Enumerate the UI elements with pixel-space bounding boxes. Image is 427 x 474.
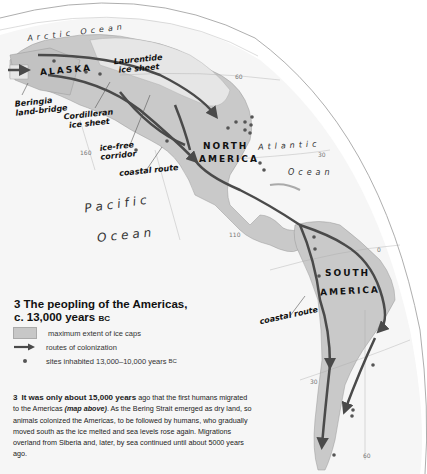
- graticule-160: 160: [80, 149, 91, 156]
- arrow-icon: [13, 342, 36, 352]
- caption-text: 3 It was only about 15,000 years ago tha…: [13, 392, 253, 460]
- graticule-0: 0: [377, 246, 381, 253]
- dot-icon: [13, 356, 36, 366]
- graticule-60-north: 60: [235, 73, 243, 80]
- label-ice-free-corridor: ice-freecorridor: [99, 140, 137, 162]
- label-north-america-1: NORTH: [203, 141, 248, 151]
- gray-swatch-icon: [13, 327, 37, 339]
- graticule-60-west: 60: [363, 452, 371, 459]
- legend-item-routes: routes of colonization: [13, 340, 177, 354]
- beringia-land-bridge: [10, 65, 28, 79]
- legend-item-sites: sites inhabited 13,000–10,000 years BC: [13, 354, 177, 368]
- label-south-america-1: SOUTH: [325, 268, 370, 278]
- label-atlantic-ocean: Ocean: [288, 168, 334, 177]
- map-legend: maximum extent of ice caps routes of col…: [13, 326, 177, 368]
- legend-item-ice-caps: maximum extent of ice caps: [13, 326, 177, 340]
- graticule-30-south: 30: [310, 378, 318, 385]
- map-title: 3 The peopling of the Americas, c. 13,00…: [14, 298, 187, 325]
- graticule-30-north: 30: [318, 151, 326, 158]
- graticule-110: 110: [229, 231, 240, 238]
- label-north-america-2: AMERICA: [199, 154, 259, 164]
